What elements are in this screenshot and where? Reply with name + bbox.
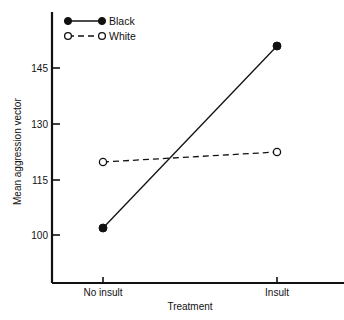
y-tick-label-130: 130 (31, 119, 48, 130)
x-tick-label-insult: Insult (265, 287, 289, 298)
chart-figure: 145 130 115 100 Mean aggression vector N… (0, 0, 344, 320)
y-tick-label-100: 100 (31, 230, 48, 241)
series-white-point-no-insult (99, 158, 106, 165)
y-tick-label-145: 145 (31, 63, 48, 74)
legend-black-marker-left (64, 17, 71, 24)
legend-entry-black: Black (64, 15, 135, 27)
series-white-line (103, 152, 277, 162)
y-axis-title: Mean aggression vector (12, 98, 23, 205)
y-tick-label-115: 115 (32, 175, 48, 186)
line-chart-svg: 145 130 115 100 Mean aggression vector N… (0, 0, 344, 320)
x-axis-title: Treatment (167, 301, 212, 312)
legend-label-white: White (109, 30, 136, 42)
series-white (99, 148, 280, 165)
legend-black-marker-right (98, 17, 105, 24)
axes-group (52, 12, 344, 283)
legend-entry-white: White (65, 30, 136, 42)
legend-white-marker-left (65, 33, 72, 40)
legend-label-black: Black (109, 15, 135, 27)
x-tick-labels: No insult Insult (84, 287, 290, 298)
series-black-line (103, 46, 277, 228)
y-tick-marks (52, 68, 60, 235)
series-black-point-no-insult (99, 224, 107, 232)
series-black-point-insult (273, 42, 281, 50)
y-tick-labels: 145 130 115 100 (31, 63, 48, 241)
series-black (99, 42, 281, 232)
legend-white-marker-right (99, 33, 106, 40)
x-tick-label-no-insult: No insult (84, 287, 123, 298)
chart-legend: Black White (64, 15, 136, 42)
series-white-point-insult (273, 148, 280, 155)
